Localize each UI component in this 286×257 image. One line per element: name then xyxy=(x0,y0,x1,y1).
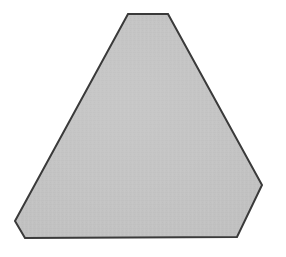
figure-page: Gray shaded hexagonal figure resembling … xyxy=(0,0,286,257)
geometric-figure xyxy=(0,0,286,257)
